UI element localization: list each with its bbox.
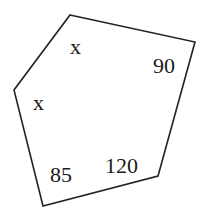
angle-label-top: x [70, 34, 81, 59]
pentagon-diagram: x 90 120 85 x [0, 0, 207, 219]
angle-label-top-right: 90 [153, 53, 175, 78]
angle-label-bottom-right: 120 [105, 153, 138, 178]
angle-label-left: x [33, 90, 44, 115]
angle-label-bottom-left: 85 [50, 162, 72, 187]
